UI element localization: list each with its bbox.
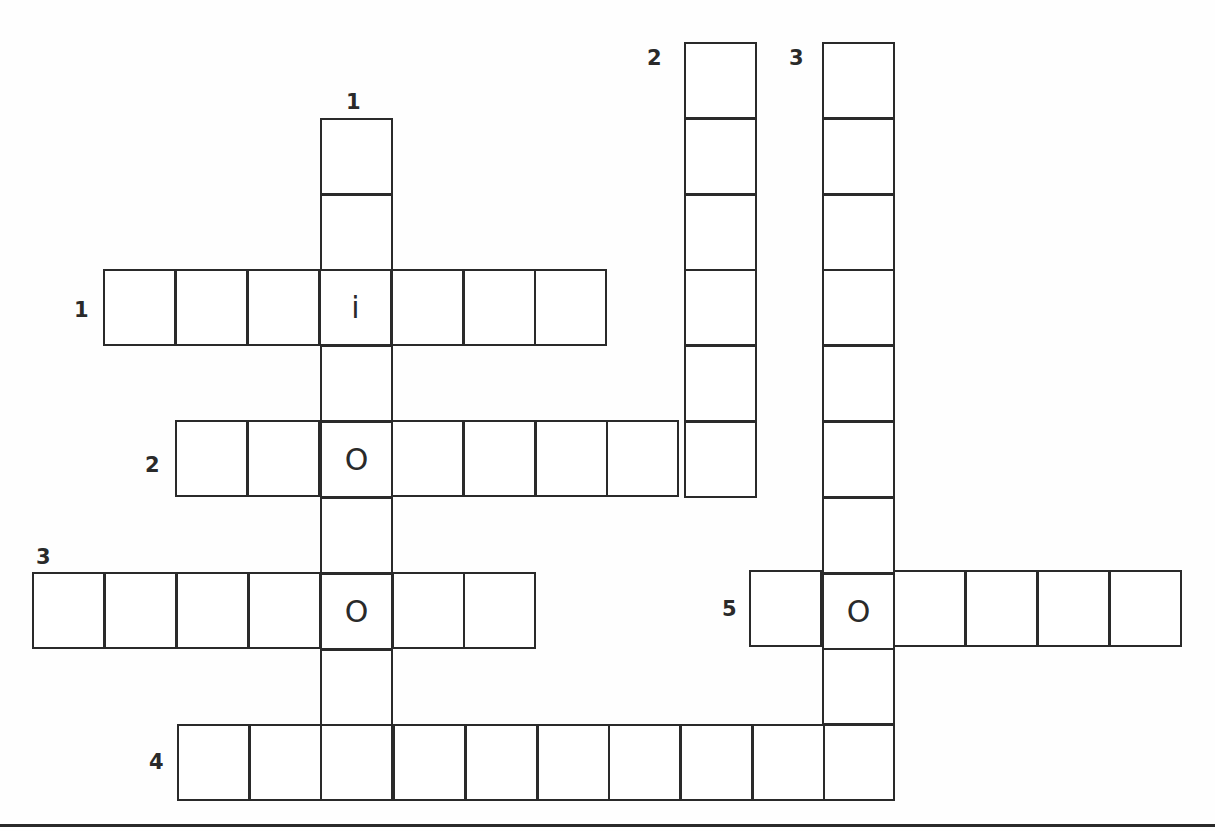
crossword-cell[interactable]: [392, 572, 465, 649]
crossword-cell[interactable]: [606, 420, 679, 497]
crossword-cell[interactable]: [176, 572, 249, 649]
bottom-divider: [0, 824, 1215, 827]
crossword-cell[interactable]: [249, 724, 322, 801]
crossword-cell[interactable]: [608, 724, 681, 801]
clue-number-across-2: 2: [145, 455, 160, 476]
crossword-cell[interactable]: [684, 118, 757, 195]
crossword-board: 1iOO23O1i2345: [0, 0, 1215, 831]
crossword-cell[interactable]: [752, 724, 825, 801]
crossword-cell[interactable]: [463, 269, 536, 346]
crossword-cell[interactable]: [822, 42, 895, 119]
crossword-cell[interactable]: [684, 42, 757, 119]
crossword-cell[interactable]: [247, 420, 320, 497]
crossword-cell[interactable]: [680, 724, 753, 801]
crossword-cell[interactable]: [175, 269, 248, 346]
crossword-cell[interactable]: [534, 269, 607, 346]
crossword-cell[interactable]: [822, 345, 895, 422]
crossword-cell[interactable]: [248, 572, 321, 649]
crossword-cell[interactable]: [893, 570, 966, 647]
crossword-cell[interactable]: [320, 345, 393, 422]
crossword-cell[interactable]: O: [320, 573, 393, 650]
crossword-cell[interactable]: [749, 570, 822, 647]
crossword-cell[interactable]: [463, 572, 536, 649]
crossword-cell[interactable]: [1109, 570, 1182, 647]
crossword-cell[interactable]: [1037, 570, 1110, 647]
crossword-cell[interactable]: [684, 194, 757, 271]
crossword-cell[interactable]: [247, 269, 320, 346]
crossword-cell[interactable]: [175, 420, 248, 497]
crossword-cell[interactable]: [822, 724, 895, 801]
clue-number-down-3: 3: [789, 48, 804, 69]
crossword-cell[interactable]: [965, 570, 1038, 647]
crossword-cell[interactable]: O: [320, 421, 393, 498]
crossword-cell[interactable]: [320, 118, 393, 195]
crossword-cell[interactable]: [391, 420, 464, 497]
crossword-cell[interactable]: [320, 649, 393, 726]
crossword-cell[interactable]: [465, 724, 538, 801]
crossword-cell[interactable]: [463, 420, 536, 497]
crossword-cell[interactable]: [684, 345, 757, 422]
crossword-cell[interactable]: [684, 421, 757, 498]
crossword-cell[interactable]: O: [822, 573, 895, 650]
clue-number-down-2: 2: [647, 48, 662, 69]
clue-number-across-1: 1: [74, 300, 89, 321]
crossword-cell[interactable]: [822, 421, 895, 498]
crossword-cell[interactable]: [822, 194, 895, 271]
crossword-cell[interactable]: [822, 648, 895, 725]
crossword-cell[interactable]: [393, 724, 466, 801]
crossword-cell[interactable]: [822, 269, 895, 346]
crossword-cell[interactable]: [320, 724, 393, 801]
crossword-cell[interactable]: [684, 269, 757, 346]
crossword-cell[interactable]: [32, 572, 105, 649]
clue-number-across-4: 4: [149, 752, 164, 773]
clue-number-across-5: 5: [722, 599, 737, 620]
crossword-cell[interactable]: [822, 497, 895, 574]
crossword-cell[interactable]: [320, 497, 393, 574]
crossword-cell[interactable]: [391, 269, 464, 346]
clue-number-down-1: 1: [346, 92, 361, 113]
crossword-cell[interactable]: [104, 572, 177, 649]
crossword-cell[interactable]: [320, 194, 393, 271]
clue-number-across-3: 3: [36, 547, 51, 568]
crossword-cell[interactable]: [537, 724, 610, 801]
crossword-cell[interactable]: [535, 420, 608, 497]
crossword-cell[interactable]: [103, 269, 176, 346]
crossword-cell[interactable]: [177, 724, 250, 801]
crossword-cell[interactable]: i: [319, 269, 392, 346]
crossword-cell[interactable]: [822, 118, 895, 195]
